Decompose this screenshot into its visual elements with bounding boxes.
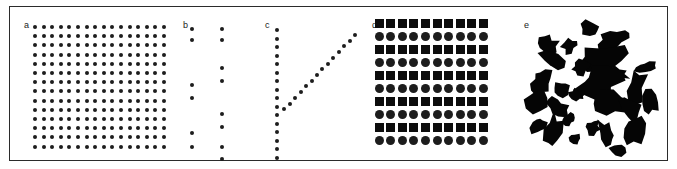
data-point [76, 145, 80, 149]
square-mark [479, 45, 488, 54]
data-point [119, 53, 123, 57]
data-point [67, 108, 71, 112]
data-point [33, 145, 37, 149]
data-point [93, 135, 97, 139]
data-point [93, 43, 97, 47]
data-point [153, 62, 157, 66]
data-point [59, 99, 63, 103]
data-point [110, 62, 114, 66]
data-point [119, 80, 123, 84]
data-point [110, 80, 114, 84]
data-point [136, 117, 140, 121]
data-point [162, 80, 166, 84]
square-mark [433, 45, 442, 54]
circle-mark [479, 110, 488, 119]
circle-mark [421, 136, 430, 145]
square-mark [421, 19, 430, 28]
data-point [136, 99, 140, 103]
data-point [275, 45, 279, 49]
square-mark [456, 97, 465, 106]
data-point [136, 89, 140, 93]
blob-shape [642, 89, 659, 115]
circle-mark [386, 136, 395, 145]
data-point [59, 62, 63, 66]
data-point [42, 62, 46, 66]
data-point [33, 43, 37, 47]
data-point [85, 43, 89, 47]
data-point [128, 53, 132, 57]
data-point [145, 117, 149, 121]
data-point [145, 80, 149, 84]
data-point [220, 112, 224, 116]
data-point [190, 131, 194, 135]
data-point [67, 71, 71, 75]
data-point [33, 89, 37, 93]
square-mark [409, 19, 418, 28]
data-point [128, 25, 132, 29]
circle-mark [409, 110, 418, 119]
data-point [136, 108, 140, 112]
square-mark [398, 45, 407, 54]
data-point [85, 34, 89, 38]
data-point [128, 43, 132, 47]
circle-mark [375, 84, 384, 93]
data-point [128, 71, 132, 75]
data-point [102, 108, 106, 112]
data-point [275, 105, 279, 109]
square-mark [375, 71, 384, 80]
circle-mark [386, 32, 395, 41]
data-point [93, 25, 97, 29]
data-point [275, 130, 279, 134]
square-mark [456, 19, 465, 28]
circle-mark [409, 136, 418, 145]
data-point [50, 80, 54, 84]
data-point [59, 89, 63, 93]
data-point [50, 135, 54, 139]
data-point [190, 145, 194, 149]
square-mark [467, 97, 476, 106]
square-mark [386, 71, 395, 80]
data-point [85, 145, 89, 149]
data-point [275, 71, 279, 75]
data-point [119, 25, 123, 29]
data-point [162, 62, 166, 66]
data-point [33, 117, 37, 121]
data-point [102, 34, 106, 38]
circle-mark [409, 32, 418, 41]
data-point [110, 25, 114, 29]
circle-mark [398, 32, 407, 41]
data-point [67, 99, 71, 103]
data-point [42, 89, 46, 93]
square-mark [375, 19, 384, 28]
data-point [102, 145, 106, 149]
data-point [33, 62, 37, 66]
data-point [275, 96, 279, 100]
data-point [67, 126, 71, 130]
circle-mark [444, 110, 453, 119]
data-point [128, 62, 132, 66]
data-point [220, 27, 224, 31]
data-point [93, 108, 97, 112]
data-point [59, 80, 63, 84]
data-point [67, 34, 71, 38]
data-point [93, 71, 97, 75]
data-point [275, 113, 279, 117]
data-point [110, 43, 114, 47]
data-point [153, 80, 157, 84]
data-point [33, 108, 37, 112]
data-point [59, 145, 63, 149]
data-point [102, 71, 106, 75]
data-point [220, 79, 224, 83]
circle-mark [479, 32, 488, 41]
circle-mark [421, 110, 430, 119]
data-point [119, 34, 123, 38]
data-point [59, 25, 63, 29]
data-point [153, 34, 157, 38]
data-point [288, 102, 292, 106]
data-point [220, 157, 224, 161]
data-point [348, 39, 352, 43]
data-point [136, 34, 140, 38]
data-point [220, 145, 224, 149]
data-point [162, 145, 166, 149]
data-point [162, 99, 166, 103]
